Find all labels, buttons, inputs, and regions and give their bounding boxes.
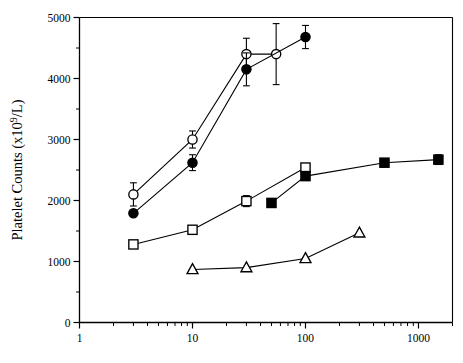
y-tick-label: 4000 (48, 73, 71, 85)
y-axis-title: Platelet Counts (x109/L) (8, 99, 27, 240)
y-tick-label: 0 (65, 317, 71, 329)
data-point-triangle-open (354, 227, 365, 237)
figure-root: 0100020003000400050001101001000Platelet … (0, 0, 463, 363)
data-point-triangle-open (187, 264, 198, 274)
data-point-square-filled (434, 155, 443, 164)
series-open-circles (129, 24, 281, 206)
data-point-triangle-open (300, 253, 311, 263)
platelet-counts-plot: 0100020003000400050001101001000Platelet … (0, 0, 463, 363)
series-line (133, 37, 305, 213)
y-tick-label: 2000 (48, 195, 71, 207)
x-tick-label: 1000 (407, 332, 430, 344)
series-line (271, 160, 438, 203)
data-point-square-open (242, 197, 251, 206)
y-tick-label: 1000 (48, 256, 71, 268)
series-line (192, 233, 359, 270)
x-tick-label: 10 (187, 332, 199, 344)
series-open-triangles (187, 227, 365, 273)
series-filled-circles (129, 25, 310, 217)
data-point-square-filled (301, 172, 310, 181)
data-point-circle-filled (301, 32, 310, 41)
data-point-circle-open (129, 190, 138, 199)
data-point-circle-filled (129, 209, 138, 218)
data-point-square-open (129, 240, 138, 249)
y-tick-label: 5000 (48, 12, 71, 24)
y-axis-title-text: Platelet Counts (x109/L) (8, 99, 27, 240)
series-filled-squares (267, 155, 443, 208)
chart-figure: 0100020003000400050001101001000Platelet … (0, 0, 463, 363)
series-open-squares (129, 163, 310, 249)
data-point-square-filled (380, 158, 389, 167)
y-tick-label: 3000 (48, 134, 71, 146)
series-line (133, 54, 276, 194)
data-point-square-open (301, 163, 310, 172)
data-point-square-filled (267, 198, 276, 207)
x-tick-label: 100 (297, 332, 315, 344)
data-point-circle-filled (188, 158, 197, 167)
data-point-square-open (188, 225, 197, 234)
data-point-circle-open (188, 135, 197, 144)
series-line (133, 168, 305, 245)
x-tick-label: 1 (77, 332, 83, 344)
data-point-circle-filled (242, 65, 251, 74)
